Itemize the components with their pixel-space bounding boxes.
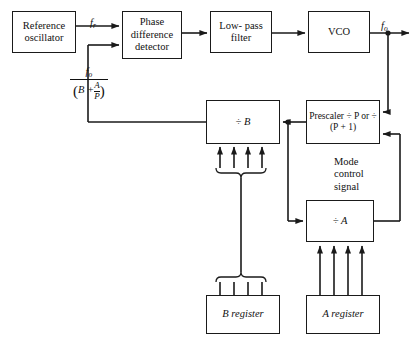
block-divide-by-b[interactable]: ÷ B — [206, 100, 280, 144]
b-register-label: B register — [222, 308, 263, 320]
a-register-label: A register — [322, 308, 363, 320]
block-low-pass-filter[interactable]: Low- pass filter — [210, 11, 272, 53]
junction-dot-prescaler-branch — [285, 119, 290, 124]
brace-upper — [216, 168, 266, 178]
block-phase-difference-detector[interactable]: Phase difference detector — [122, 11, 182, 59]
block-diagram-canvas: Reference oscillator Phase difference de… — [0, 0, 417, 341]
feedback-numerator: fo — [70, 66, 108, 79]
block-a-register[interactable]: A register — [306, 295, 380, 334]
feedback-denominator: (B +AP) — [70, 79, 108, 101]
block-reference-oscillator[interactable]: Reference oscillator — [12, 11, 76, 53]
block-vco[interactable]: VCO — [308, 11, 370, 53]
block-prescaler[interactable]: Prescaler ÷ P or ÷ (P + 1) — [306, 100, 380, 144]
block-b-register[interactable]: B register — [206, 295, 280, 334]
signal-label-feedback-frequency: fo (B +AP) — [70, 66, 108, 101]
brace-lower — [216, 272, 266, 282]
signal-label-fr: fr — [90, 5, 96, 31]
block-divide-by-a[interactable]: ÷ A — [306, 200, 374, 242]
label-mode-control-signal: Mode control signal — [334, 156, 364, 193]
signal-label-fo-output: fo — [381, 8, 388, 34]
